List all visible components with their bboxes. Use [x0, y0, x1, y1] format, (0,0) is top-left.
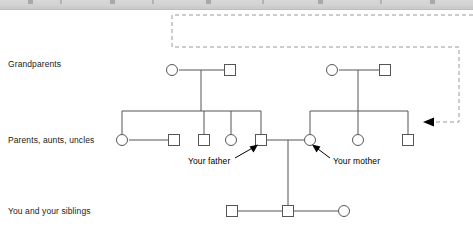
paternal-grandparent-group: [122, 65, 261, 135]
generation-3-group: [227, 206, 350, 217]
mother-callout-arrow: [312, 145, 330, 159]
father-callout-arrow: [235, 145, 258, 159]
sibling-brother-symbol[interactable]: [227, 206, 238, 217]
row-label-grandparents: Grandparents: [8, 59, 61, 69]
pedigree-figure: Grandparents Parents, aunts, uncles You …: [0, 0, 473, 231]
maternal-uncle-1-symbol[interactable]: [403, 135, 414, 146]
maternal-aunt-1-symbol[interactable]: [353, 135, 364, 146]
paternal-uncle-2-symbol[interactable]: [199, 135, 210, 146]
dashed-callout-line: [172, 15, 473, 127]
mother-callout-label: Your mother: [333, 156, 380, 166]
you-symbol[interactable]: [283, 206, 294, 217]
pedigree-canvas: [0, 0, 473, 231]
maternal-grandparent-group: [310, 65, 408, 135]
generation-2-group: [117, 135, 414, 206]
maternal-grandfather-symbol[interactable]: [380, 65, 391, 76]
paternal-grandfather-symbol[interactable]: [225, 65, 236, 76]
row-label-you-and-siblings: You and your siblings: [8, 206, 91, 216]
maternal-grandmother-symbol[interactable]: [327, 65, 338, 76]
father-callout-label: Your father: [188, 156, 230, 166]
left-arrowhead: [423, 118, 434, 127]
mother-symbol[interactable]: [305, 135, 316, 146]
father-symbol[interactable]: [256, 135, 267, 146]
paternal-aunt-1-symbol[interactable]: [117, 135, 128, 146]
paternal-aunt-2-symbol[interactable]: [226, 135, 237, 146]
paternal-uncle-1-symbol[interactable]: [169, 135, 180, 146]
paternal-grandmother-symbol[interactable]: [167, 65, 178, 76]
sibling-sister-symbol[interactable]: [339, 206, 350, 217]
row-label-parents-aunts-uncles: Parents, aunts, uncles: [8, 135, 94, 145]
